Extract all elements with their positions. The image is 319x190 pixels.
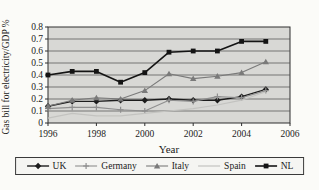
x-tick-label: 2000 <box>135 129 154 139</box>
x-tick-label: 2006 <box>281 129 300 139</box>
legend-marker-diamond-icon <box>26 161 50 171</box>
legend-label: Spain <box>224 160 246 172</box>
y-tick-label: 0 <box>38 118 43 128</box>
x-tick-label: 2002 <box>184 129 203 139</box>
y-tick-label: 0.2 <box>31 94 43 104</box>
data-point <box>239 39 244 44</box>
data-point <box>263 164 268 169</box>
legend-label: UK <box>53 160 67 172</box>
legend: UKGermanyItalySpainNL <box>15 157 305 175</box>
legend-marker-square-icon <box>254 161 278 171</box>
legend-marker-none-icon <box>197 161 221 171</box>
x-axis-title: Year <box>159 143 180 155</box>
legend-item-NL: NL <box>250 160 298 172</box>
data-point <box>167 50 172 55</box>
legend-item-UK: UK <box>22 160 71 172</box>
legend-item-Spain: Spain <box>193 160 250 172</box>
y-tick-label: 0.8 <box>31 22 43 32</box>
legend-label: Italy <box>172 160 189 172</box>
legend-label: Germany <box>101 160 136 172</box>
x-tick-label: 1998 <box>87 129 106 139</box>
data-point <box>142 70 147 75</box>
legend-item-Italy: Italy <box>141 160 193 172</box>
y-tick-label: 0.6 <box>31 46 43 56</box>
y-tick-label: 0.7 <box>31 34 43 44</box>
y-axis-title: Gas bill for electricity/GDP % <box>1 19 11 134</box>
legend-marker-plus-icon <box>74 161 98 171</box>
data-point <box>34 163 40 169</box>
legend-label: NL <box>281 160 294 172</box>
x-tick-label: 2004 <box>232 129 251 139</box>
data-point <box>70 69 75 74</box>
data-point <box>118 80 123 85</box>
y-tick-label: 0.5 <box>31 58 43 68</box>
y-tick-label: 0.3 <box>31 82 43 92</box>
y-tick-label: 0.4 <box>31 70 43 80</box>
data-point <box>215 49 220 54</box>
data-point <box>263 39 268 44</box>
data-point <box>94 69 99 74</box>
x-tick-label: 1996 <box>39 129 58 139</box>
data-point <box>46 73 51 78</box>
legend-item-Germany: Germany <box>70 160 140 172</box>
y-tick-label: 0.1 <box>31 106 43 116</box>
chart-figure: 00.10.20.30.40.50.60.70.8199619982000200… <box>0 0 319 190</box>
legend-marker-triangle-icon <box>145 161 169 171</box>
data-point <box>191 49 196 54</box>
